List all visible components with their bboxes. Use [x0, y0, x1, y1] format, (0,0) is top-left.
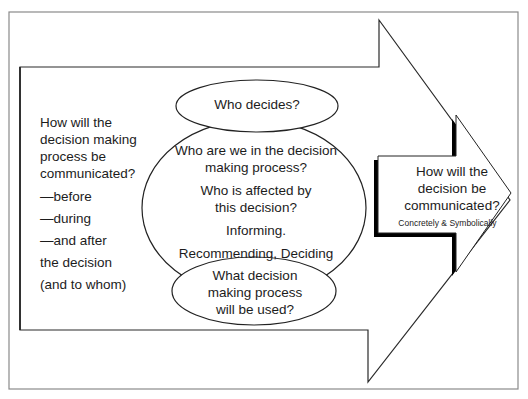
small-arrow-line: How will the	[392, 163, 512, 180]
middle-block-1: Who are we in the decision making proces…	[150, 142, 362, 176]
left-text-line: —during	[40, 208, 150, 230]
bottom-line: will be used?	[175, 301, 335, 318]
small-arrow-text: How will the decision be communicated?	[392, 163, 512, 214]
left-text-line: communicated?	[40, 165, 150, 182]
small-arrow-line: decision be	[392, 180, 512, 197]
left-text-line: the decision	[40, 252, 150, 274]
left-text-line: decision making	[40, 131, 150, 148]
bottom-line: What decision	[175, 267, 335, 284]
middle-line: this decision?	[150, 199, 362, 216]
bottom-line: making process	[175, 284, 335, 301]
big-arrow-left-text: How will the decision making process be …	[40, 114, 150, 296]
left-text-line: —and after	[40, 230, 150, 252]
left-text-line: —before	[40, 186, 150, 208]
middle-line: Who are we in the decision	[150, 142, 362, 159]
left-text-line: process be	[40, 148, 150, 165]
middle-line: Who is affected by	[150, 182, 362, 199]
ellipse-top-label: Who decides?	[177, 97, 337, 113]
left-text-line: How will the	[40, 114, 150, 131]
middle-line: Informing.	[150, 222, 362, 239]
middle-line: Recommending, Deciding	[150, 245, 362, 262]
small-arrow-subtitle: Concretely & Symbolically	[380, 218, 515, 228]
middle-line: making process?	[150, 159, 362, 176]
small-arrow-line: communicated?	[392, 197, 512, 214]
ellipse-middle-text: Who are we in the decision making proces…	[150, 142, 362, 268]
left-text-line: (and to whom)	[40, 274, 150, 296]
middle-block-2: Who is affected by this decision?	[150, 182, 362, 216]
ellipse-bottom-text: What decision making process will be use…	[175, 267, 335, 318]
